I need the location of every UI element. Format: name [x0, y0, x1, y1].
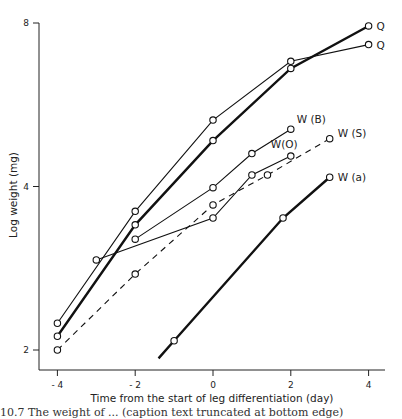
series-label: W (B) — [297, 113, 326, 125]
data-point-marker — [210, 202, 216, 208]
series-label: W (a) — [338, 171, 366, 183]
data-point-marker — [249, 172, 255, 178]
data-point-marker — [249, 150, 255, 156]
data-point-marker — [365, 41, 371, 47]
x-tick-label: 0 — [210, 380, 216, 390]
series-line — [57, 26, 368, 336]
series-label: W(O) — [271, 138, 298, 150]
data-point-marker — [210, 137, 216, 143]
data-point-marker — [171, 338, 177, 344]
data-point-marker — [54, 320, 60, 326]
x-tick-label: 4 — [366, 380, 372, 390]
x-tick-label: - 2 — [129, 380, 141, 390]
series-group — [54, 23, 372, 359]
data-point-marker — [132, 222, 138, 228]
series-wo-thin — [93, 153, 294, 263]
x-tick-label: 2 — [288, 380, 294, 390]
figure-caption: 10.7 The weight of ... (caption text tru… — [0, 406, 402, 419]
data-point-marker — [210, 215, 216, 221]
data-point-marker — [288, 58, 294, 64]
series-wa-thick — [159, 174, 333, 358]
series-label: Q — [377, 39, 385, 51]
data-point-marker — [288, 126, 294, 132]
data-point-marker — [365, 23, 371, 29]
data-point-marker — [288, 153, 294, 159]
data-point-marker — [327, 174, 333, 180]
data-point-marker — [132, 208, 138, 214]
series-label: W (S) — [338, 127, 367, 139]
series-line — [159, 177, 330, 358]
data-point-marker — [280, 215, 286, 221]
data-point-marker — [327, 135, 333, 141]
series-label: Q — [377, 20, 385, 32]
data-point-marker — [132, 271, 138, 277]
data-point-marker — [264, 172, 270, 178]
data-point-marker — [54, 347, 60, 353]
data-point-marker — [93, 257, 99, 263]
data-point-marker — [210, 117, 216, 123]
data-point-marker — [288, 65, 294, 71]
series-line — [96, 156, 290, 260]
y-axis-label: Log weight (mg) — [7, 152, 19, 238]
y-tick-label: 2 — [23, 345, 29, 355]
x-tick-label: - 4 — [51, 380, 63, 390]
y-ticks: 248 — [23, 18, 39, 355]
data-point-marker — [132, 236, 138, 242]
data-point-marker — [210, 184, 216, 190]
y-tick-label: 8 — [23, 18, 29, 28]
x-axis-label: Time from the start of leg differentiati… — [90, 392, 334, 404]
x-ticks: - 4- 2024 — [51, 370, 371, 390]
data-point-marker — [54, 333, 60, 339]
y-tick-label: 4 — [23, 182, 29, 192]
